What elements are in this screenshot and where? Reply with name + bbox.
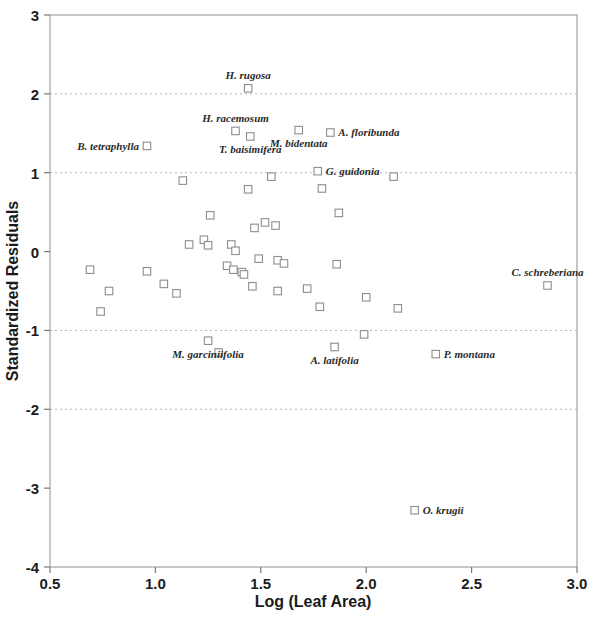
- data-point-marker: [173, 290, 181, 298]
- point-label: B. tetraphylla: [76, 140, 139, 152]
- data-point-marker: [390, 173, 398, 181]
- data-point-marker: [272, 222, 280, 230]
- data-point-marker: [185, 241, 193, 249]
- data-point-marker: [432, 350, 440, 358]
- data-point-marker: [244, 85, 252, 93]
- x-tick-label: 3.0: [567, 575, 588, 592]
- data-point-marker: [230, 266, 238, 274]
- point-label: M. bidentata: [269, 137, 328, 149]
- data-point-marker: [105, 287, 113, 295]
- x-axis-title: Log (Leaf Area): [255, 593, 372, 610]
- x-axis-ticks: 0.51.01.52.02.53.0: [40, 567, 588, 592]
- data-point-marker: [244, 186, 252, 194]
- data-point-marker: [206, 212, 214, 220]
- data-point-marker: [143, 142, 151, 150]
- data-point-marker: [261, 219, 269, 227]
- point-label: A. floribunda: [337, 126, 400, 138]
- plot-border: [50, 15, 577, 567]
- data-point-marker: [316, 303, 324, 311]
- data-point-marker: [318, 185, 326, 193]
- y-tick-label: 3: [31, 7, 39, 24]
- data-point-marker: [240, 271, 248, 279]
- y-tick-label: -1: [26, 322, 39, 339]
- point-label: H. racemosum: [201, 112, 269, 124]
- data-point-marker: [232, 247, 240, 255]
- data-point-marker: [411, 506, 419, 514]
- point-label: H. rugosa: [225, 69, 272, 81]
- y-tick-label: -3: [26, 480, 39, 497]
- y-axis-title: Standardized Residuals: [4, 201, 21, 382]
- data-point-marker: [394, 305, 402, 313]
- plot-frame: [50, 15, 577, 567]
- data-point-marker: [544, 282, 552, 290]
- data-point-marker: [232, 127, 240, 135]
- data-point-marker: [179, 177, 187, 185]
- y-tick-label: 1: [31, 165, 39, 182]
- y-tick-label: 2: [31, 86, 39, 103]
- y-tick-label: -4: [26, 559, 40, 576]
- data-point-marker: [247, 133, 255, 141]
- data-point-marker: [268, 173, 276, 181]
- point-label: A. latifolia: [309, 354, 359, 366]
- y-tick-label: -2: [26, 401, 39, 418]
- scatter-plot-figure: 0.51.01.52.02.53.0 3210-1-2-3-4 B. tetra…: [0, 0, 599, 617]
- data-point-marker: [204, 242, 212, 250]
- data-point-marker: [295, 126, 303, 134]
- data-point-marker: [204, 337, 212, 345]
- y-axis-ticks: 3210-1-2-3-4: [26, 7, 50, 576]
- plot-canvas: 0.51.01.52.02.53.0 3210-1-2-3-4 B. tetra…: [0, 0, 599, 617]
- x-tick-label: 1.0: [145, 575, 166, 592]
- data-point-marker: [327, 129, 335, 137]
- data-point-marker: [314, 167, 322, 175]
- point-label: P. montana: [444, 348, 496, 360]
- data-point-marker: [86, 266, 94, 274]
- data-point-marker: [331, 343, 339, 351]
- x-tick-label: 2.5: [461, 575, 482, 592]
- data-point-marker: [249, 283, 256, 291]
- data-point-marker: [274, 287, 282, 295]
- data-point-marker: [362, 294, 370, 302]
- data-point-marker: [143, 268, 151, 276]
- point-label: C. schreberiana: [511, 266, 584, 278]
- point-label: G. guidonia: [326, 165, 380, 177]
- point-label: M. garciniifolia: [171, 348, 244, 360]
- data-point-marker: [333, 260, 341, 268]
- x-tick-label: 2.0: [356, 575, 377, 592]
- data-point-marker: [160, 280, 168, 288]
- data-point-marker: [251, 224, 259, 232]
- data-point-marker: [280, 260, 288, 268]
- point-label: O. krugii: [423, 504, 465, 516]
- data-point-marker: [335, 209, 343, 217]
- data-point-marker: [360, 331, 368, 339]
- data-point-marker: [303, 285, 311, 293]
- x-tick-label: 0.5: [40, 575, 61, 592]
- y-tick-label: 0: [31, 244, 39, 261]
- data-point-marker: [255, 255, 263, 263]
- data-point-marker: [97, 308, 105, 316]
- x-tick-label: 1.5: [250, 575, 271, 592]
